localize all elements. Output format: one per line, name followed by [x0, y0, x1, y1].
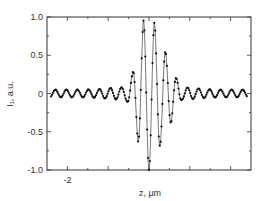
x-tick-label: -2	[63, 175, 71, 185]
y-tick-label: 0.5	[30, 50, 43, 60]
y-tick-labels: 1.00.50-0.5-1.0	[27, 12, 43, 175]
axis-ticks	[47, 17, 251, 170]
x-tick-labels: -2	[63, 175, 71, 185]
y-tick-label: 0	[38, 89, 43, 99]
y-tick-label: 1.0	[30, 12, 43, 22]
y-axis-label: I₁, a.u.	[5, 81, 15, 107]
data-markers	[50, 20, 248, 171]
x-axis-label: z, µm	[139, 188, 161, 198]
plot-frame	[47, 17, 251, 170]
chart-svg: 1.00.50-0.5-1.0 -2 z, µm I₁, a.u.	[0, 0, 262, 201]
y-tick-label: -1.0	[27, 165, 43, 175]
y-tick-label: -0.5	[27, 127, 43, 137]
